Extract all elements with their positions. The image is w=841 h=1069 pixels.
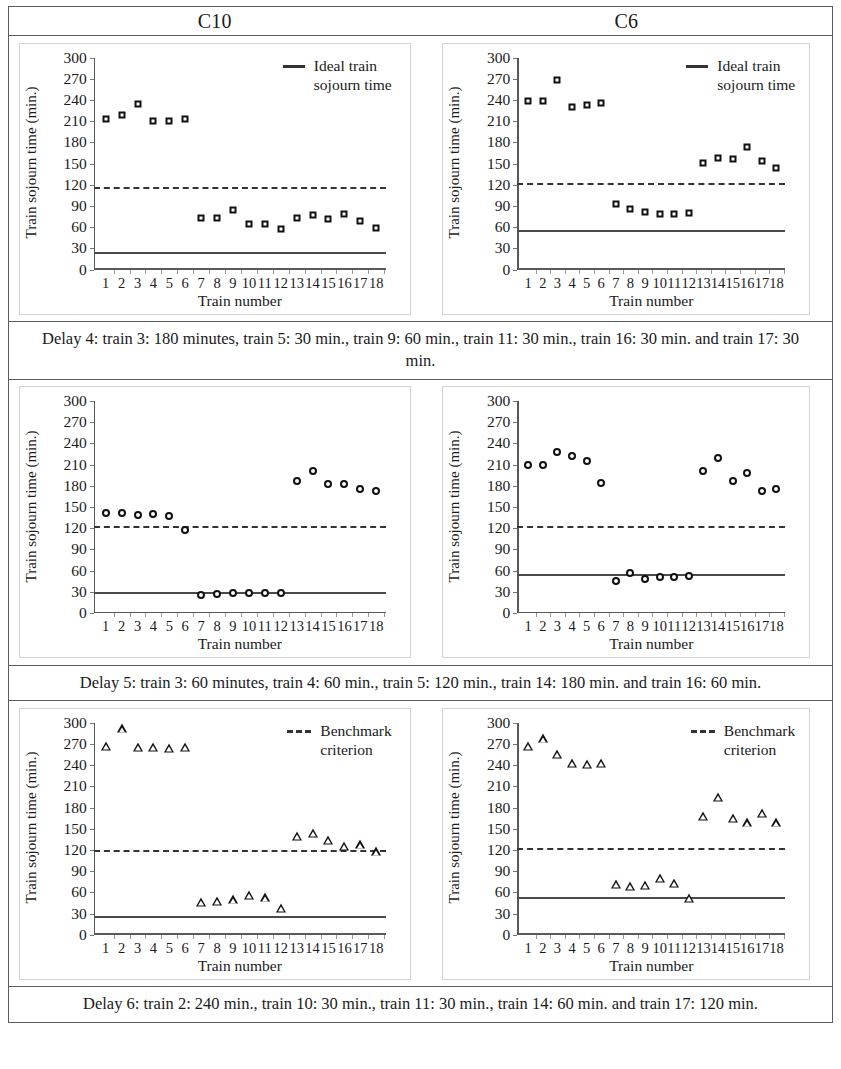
x-axis-tick-mark — [257, 270, 258, 274]
x-axis-tick-mark — [536, 270, 537, 274]
y-axis-tick-mark — [90, 422, 94, 423]
x-axis-tick-label: 15 — [725, 276, 740, 291]
x-axis-tick-label: 1 — [102, 941, 109, 956]
x-axis-tick-mark — [638, 935, 639, 939]
data-point-circle — [277, 589, 285, 597]
x-axis-tick-mark — [784, 613, 785, 617]
x-axis-tick-label: 10 — [652, 941, 667, 956]
y-axis-tick-mark — [513, 248, 517, 249]
y-axis-tick-mark — [513, 935, 517, 936]
x-axis-tick-label: 9 — [641, 941, 648, 956]
x-axis-tick-mark — [565, 613, 566, 617]
legend-label-line1: Ideal train — [314, 56, 392, 75]
data-point-square — [102, 115, 109, 122]
x-axis-tick-mark — [609, 613, 610, 617]
x-axis-tick-label: 18 — [769, 941, 784, 956]
x-axis-tick-label: 9 — [229, 941, 236, 956]
x-axis-tick-label: 16 — [740, 619, 755, 634]
data-point-circle — [539, 461, 547, 469]
x-axis-tick-mark — [682, 270, 683, 274]
x-axis-tick-label: 4 — [150, 276, 157, 291]
y-axis-tick-mark — [90, 227, 94, 228]
y-axis-tick-mark — [513, 422, 517, 423]
x-axis-tick-mark — [740, 935, 741, 939]
x-axis-tick-mark — [193, 613, 194, 617]
x-axis-tick-mark — [623, 270, 624, 274]
data-point-triangle — [276, 903, 286, 912]
x-axis-tick-label: 11 — [667, 941, 681, 956]
data-point-circle — [356, 485, 364, 493]
x-axis-tick-mark — [321, 270, 322, 274]
data-point-circle — [612, 577, 620, 585]
x-axis-tick-label: 10 — [242, 619, 257, 634]
data-point-circle — [261, 589, 269, 597]
y-axis-label: Train sojourn time (min.) — [445, 387, 465, 625]
y-axis-tick-mark — [90, 871, 94, 872]
x-axis-tick-mark — [594, 613, 595, 617]
data-point-triangle — [538, 734, 548, 743]
benchmark-criterion-line — [94, 187, 386, 189]
data-point-triangle — [148, 742, 158, 751]
x-axis-title: Train number — [94, 292, 386, 310]
y-axis-label: Train sojourn time (min.) — [22, 709, 42, 947]
x-axis-tick-label: 7 — [198, 619, 205, 634]
x-axis-tick-mark — [682, 935, 683, 939]
legend-ideal: Ideal trainsojourn time — [686, 56, 795, 95]
y-axis-tick-mark — [513, 270, 517, 271]
data-point-triangle — [582, 759, 592, 768]
y-axis-tick-mark — [90, 142, 94, 143]
x-axis-tick-mark — [193, 935, 194, 939]
x-axis-tick-mark — [667, 935, 668, 939]
data-point-triangle — [180, 742, 190, 751]
x-axis-tick-label: 16 — [337, 276, 352, 291]
chart-cell-delay6-c6: Train sojourn time (min.)030609012015018… — [421, 701, 833, 986]
data-point-triangle — [101, 742, 111, 751]
caption-delay5: Delay 5: train 3: 60 minutes, train 4: 6… — [9, 666, 832, 702]
y-axis-tick-mark — [90, 401, 94, 402]
x-axis-tick-mark — [114, 613, 115, 617]
y-axis-tick-mark — [513, 808, 517, 809]
data-point-square — [229, 207, 236, 214]
chart-cell-delay5-c6: Train sojourn time (min.)030609012015018… — [421, 380, 833, 665]
x-axis-tick-label: 10 — [652, 276, 667, 291]
data-point-square — [715, 154, 722, 161]
y-axis-tick-mark — [90, 58, 94, 59]
y-axis-line — [517, 723, 518, 935]
x-axis-tick-mark — [711, 935, 712, 939]
legend-benchmark: Benchmarkcriterion — [691, 721, 795, 760]
x-axis-title: Train number — [94, 957, 386, 975]
x-axis-tick-label: 14 — [711, 619, 726, 634]
y-axis-tick-mark — [90, 892, 94, 893]
data-point-circle — [181, 526, 189, 534]
data-point-square — [525, 97, 532, 104]
x-axis-tick-label: 2 — [539, 619, 546, 634]
x-axis-tick-label: 18 — [369, 619, 384, 634]
data-point-square — [118, 112, 125, 119]
y-axis-tick-mark — [513, 206, 517, 207]
data-point-triangle — [117, 724, 127, 733]
y-axis-label: Train sojourn time (min.) — [445, 44, 465, 282]
chart-delay5-c6: Train sojourn time (min.)030609012015018… — [442, 386, 810, 658]
data-point-circle — [524, 461, 532, 469]
x-axis-tick-mark — [725, 270, 726, 274]
data-point-triangle — [371, 847, 381, 856]
x-axis-tick-label: 1 — [102, 619, 109, 634]
data-point-triangle — [339, 841, 349, 850]
x-axis-title: Train number — [94, 635, 386, 653]
x-axis-tick-label: 5 — [583, 941, 590, 956]
x-axis-tick-label: 15 — [725, 941, 740, 956]
y-axis-tick-mark — [90, 443, 94, 444]
x-axis-tick-label: 6 — [598, 619, 605, 634]
x-axis-tick-label: 8 — [627, 276, 634, 291]
x-axis-tick-label: 7 — [612, 276, 619, 291]
y-axis-tick-mark — [90, 206, 94, 207]
x-axis-tick-mark — [352, 613, 353, 617]
x-axis-tick-label: 2 — [539, 276, 546, 291]
x-axis-tick-label: 3 — [134, 276, 141, 291]
x-axis-tick-mark — [273, 613, 274, 617]
column-header-c10: C10 — [9, 7, 421, 35]
data-point-circle — [372, 487, 380, 495]
data-point-triangle — [669, 879, 679, 888]
caption-delay4: Delay 4: train 3: 180 minutes, train 5: … — [9, 322, 832, 380]
y-axis-line — [517, 401, 518, 613]
